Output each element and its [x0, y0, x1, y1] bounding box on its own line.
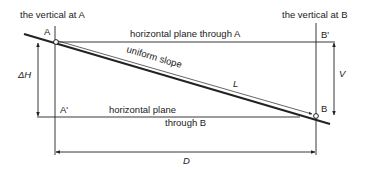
point-b-marker [314, 114, 319, 119]
label-delta-h: ΔH [17, 69, 31, 80]
label-point-a: A [44, 26, 51, 37]
label-v: V [339, 68, 347, 79]
label-point-a-prime: A' [60, 104, 68, 115]
point-a-marker [54, 40, 59, 45]
slope-length-line [58, 41, 312, 114]
label-plane-b-line1: horizontal plane [109, 104, 176, 115]
label-vertical-b: the vertical at B [282, 9, 347, 20]
label-point-b-prime: B' [321, 29, 329, 40]
slope-line [24, 34, 330, 124]
label-plane-b-line2: through B [165, 117, 206, 128]
label-d: D [183, 155, 190, 166]
label-vertical-a: the vertical at A [20, 9, 86, 20]
label-point-b: B [321, 103, 327, 114]
slope-geometry-diagram: the vertical at A the vertical at B A B'… [0, 0, 366, 170]
label-plane-a: horizontal plane through A [130, 28, 241, 39]
label-slope-length: L [233, 78, 238, 89]
